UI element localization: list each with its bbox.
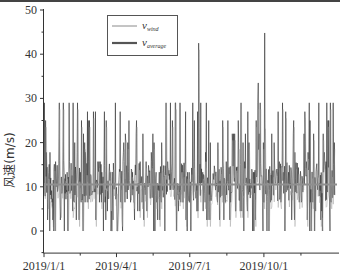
- y-tick-label: 10: [25, 180, 37, 194]
- y-tick-label: 0: [31, 224, 37, 238]
- y-tick-label: 20: [25, 136, 37, 150]
- legend: vwindvaverage: [108, 16, 178, 56]
- wind-speed-chart: 010203040502019/1/12019/4/12019/7/12019/…: [0, 0, 340, 278]
- y-tick-label: 30: [25, 91, 37, 105]
- y-axis-label: 风速(m/s): [3, 132, 17, 187]
- x-tick-label: 2019/1/1: [23, 259, 66, 273]
- y-tick-label: 50: [25, 3, 37, 17]
- v-wind-line: [44, 33, 335, 231]
- x-tick-label: 2019/4/1: [95, 259, 138, 273]
- x-tick-label: 2019/10/1: [240, 259, 289, 273]
- wind-series-layer: [44, 33, 337, 231]
- y-tick-label: 40: [25, 47, 37, 61]
- x-tick-label: 2019/7/1: [168, 259, 211, 273]
